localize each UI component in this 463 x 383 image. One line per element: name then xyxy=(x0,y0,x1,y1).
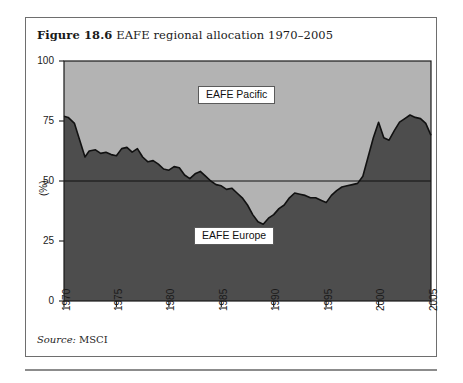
series-label-pacific: EAFE Pacific xyxy=(198,86,275,104)
series-label-europe: EAFE Europe xyxy=(194,227,274,245)
chart-plot-area: (%) 100 75 50 25 0 1970 1975 1980 1985 1… xyxy=(26,18,438,358)
x-tick-label-1985: 1985 xyxy=(218,289,229,311)
y-axis-ticks xyxy=(59,61,64,301)
y-tick-label-0: 0 xyxy=(28,295,54,306)
y-tick-label-75: 75 xyxy=(28,115,54,126)
y-tick-label-50: 50 xyxy=(28,175,54,186)
x-tick-label-1970: 1970 xyxy=(61,289,72,311)
y-tick-label-25: 25 xyxy=(28,235,54,246)
x-tick-label-1995: 1995 xyxy=(323,289,334,311)
y-tick-label-100: 100 xyxy=(28,55,54,66)
page-divider-rule xyxy=(25,369,437,371)
x-tick-label-2005: 2005 xyxy=(428,289,439,311)
x-tick-label-1975: 1975 xyxy=(113,289,124,311)
figure-container: Figure 18.6 EAFE regional allocation 197… xyxy=(25,17,437,357)
x-tick-label-1980: 1980 xyxy=(165,289,176,311)
x-tick-label-1990: 1990 xyxy=(270,289,281,311)
source-note: Source:MSCI xyxy=(37,334,108,345)
source-value: MSCI xyxy=(79,334,108,345)
x-tick-label-2000: 2000 xyxy=(375,289,386,311)
source-label: Source: xyxy=(37,334,76,345)
